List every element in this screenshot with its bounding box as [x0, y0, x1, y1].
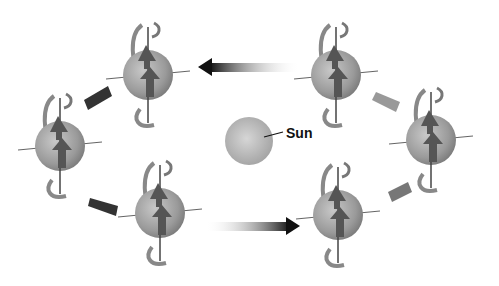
earth-right [389, 88, 473, 191]
orbit-diagram [0, 0, 499, 286]
orbit-arrow-bottom [205, 217, 300, 235]
orbit-arrow-top [198, 58, 300, 76]
earth-bottom-right [296, 163, 380, 266]
earth-left [18, 94, 102, 197]
earth-bottom-left [118, 161, 202, 264]
earth-top-left [106, 23, 190, 126]
sun [225, 117, 283, 165]
sun-label: Sun [286, 125, 312, 141]
orbit-arrow-lower-left [88, 198, 118, 216]
orbit-arrow-lower-right [388, 182, 412, 202]
orbit-arrow-upper-left [84, 86, 112, 110]
orbit-arrow-upper-right [372, 92, 400, 112]
earth-top-right [294, 23, 378, 126]
